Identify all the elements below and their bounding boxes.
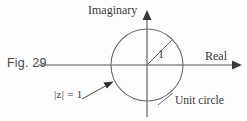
modulus-leader-arrowhead — [104, 82, 114, 89]
modulus-equation-label: |z| = 1 — [54, 89, 83, 100]
real-axis-label: Real — [205, 50, 227, 62]
unit-circle-label: Unit circle — [175, 95, 224, 107]
imaginary-axis-arrowhead — [143, 10, 152, 20]
modulus-leader-line — [82, 84, 109, 99]
imaginary-axis-label: Imaginary — [88, 4, 137, 16]
radius-length-label: 1 — [158, 48, 164, 60]
complex-plane-unit-circle-figure: Fig. 29 Imaginary Real 1 |z| = 1 Unit ci… — [0, 0, 247, 121]
real-axis-arrowhead — [232, 61, 242, 70]
figure-caption: Fig. 29 — [7, 57, 47, 70]
